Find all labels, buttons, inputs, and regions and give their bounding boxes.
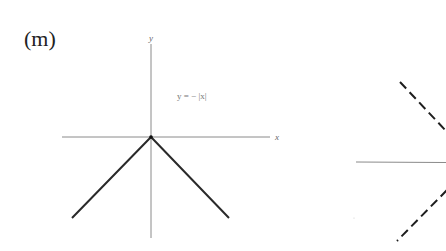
- speck: [353, 217, 354, 218]
- dashed-lower-line: [397, 190, 446, 241]
- vertex-point: [149, 135, 153, 139]
- left-graph: y x y = − |x|: [62, 33, 279, 238]
- dashed-upper-line: [400, 82, 446, 132]
- graphs-canvas: y x y = − |x|: [0, 0, 446, 251]
- right-x-axis: [356, 162, 446, 163]
- x-axis-label: x: [274, 132, 279, 142]
- right-graph: [353, 82, 446, 241]
- y-axis-label: y: [148, 33, 153, 43]
- equation-label: y = − |x|: [177, 91, 207, 101]
